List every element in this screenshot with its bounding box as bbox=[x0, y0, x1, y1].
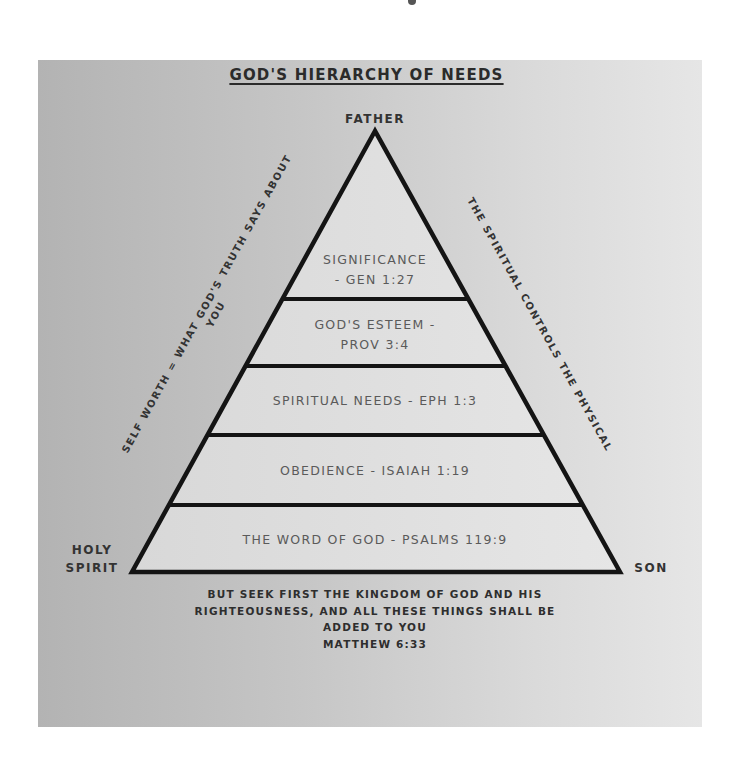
quote-line2: RIGHTEOUSNESS, AND ALL THESE THINGS SHAL… bbox=[140, 603, 610, 620]
vertex-spirit-label: SPIRIT bbox=[52, 559, 132, 577]
scripture-quote: BUT SEEK FIRST THE KINGDOM OF GOD AND HI… bbox=[140, 586, 610, 652]
vertex-father: FATHER bbox=[325, 110, 425, 128]
level-significance: SIGNIFICANCE - GEN 1:27 bbox=[290, 250, 460, 290]
level-2-line1: GOD'S ESTEEM - bbox=[270, 315, 480, 335]
quote-reference: MATTHEW 6:33 bbox=[140, 636, 610, 653]
quote-line3: ADDED TO YOU bbox=[140, 619, 610, 636]
level-word-of-god: THE WORD OF GOD - PSALMS 119:9 bbox=[160, 530, 590, 550]
vertex-holy-label: HOLY bbox=[52, 541, 132, 559]
level-3-line1: SPIRITUAL NEEDS - EPH 1:3 bbox=[220, 391, 530, 411]
level-4-line1: OBEDIENCE - ISAIAH 1:19 bbox=[190, 461, 560, 481]
vertex-father-label: FATHER bbox=[345, 112, 405, 126]
level-obedience: OBEDIENCE - ISAIAH 1:19 bbox=[190, 461, 560, 481]
level-spiritual-needs: SPIRITUAL NEEDS - EPH 1:3 bbox=[220, 391, 530, 411]
level-1-line1: SIGNIFICANCE bbox=[290, 250, 460, 270]
quote-line1: BUT SEEK FIRST THE KINGDOM OF GOD AND HI… bbox=[140, 586, 610, 603]
level-2-line2: PROV 3:4 bbox=[270, 335, 480, 355]
level-gods-esteem: GOD'S ESTEEM - PROV 3:4 bbox=[270, 315, 480, 355]
vertex-son-label: SON bbox=[634, 561, 667, 575]
level-1-line2: - GEN 1:27 bbox=[290, 270, 460, 290]
vertex-holy-spirit: HOLY SPIRIT bbox=[52, 541, 132, 577]
vertex-son: SON bbox=[626, 559, 676, 577]
level-5-line1: THE WORD OF GOD - PSALMS 119:9 bbox=[160, 530, 590, 550]
